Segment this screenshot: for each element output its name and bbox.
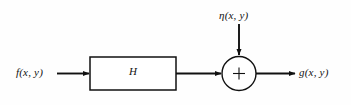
- noise-source-label: η(x, y): [219, 9, 248, 21]
- diagram-canvas: [0, 0, 351, 105]
- input-signal-label: f(x, y): [16, 66, 43, 78]
- degradation-model-diagram: f(x, y) H η(x, y) g(x, y): [0, 0, 351, 105]
- degradation-function-label: H: [129, 65, 137, 77]
- output-signal-label: g(x, y): [299, 66, 329, 78]
